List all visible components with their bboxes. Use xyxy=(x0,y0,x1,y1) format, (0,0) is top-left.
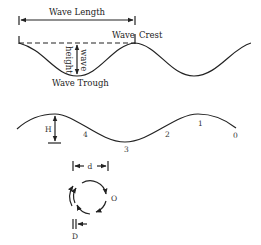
height-label: H xyxy=(45,125,52,134)
diameter-label: d xyxy=(88,162,93,171)
drift-dimension: D xyxy=(72,219,87,241)
point-3: 3 xyxy=(124,145,129,154)
orbital-circle: O xyxy=(70,181,117,214)
wave-crest-label-crest: Crest xyxy=(139,30,163,40)
wave-diagram: Wave Length height wave Wave Crest Wave … xyxy=(0,0,261,245)
wave-height-label-height: height xyxy=(64,46,74,74)
wave-height-label-wave: wave xyxy=(79,49,89,71)
wave-length-dimension: Wave Length xyxy=(19,7,135,25)
point-1: 1 xyxy=(198,119,203,128)
diameter-dimension: d xyxy=(73,161,108,171)
drift-label: D xyxy=(72,232,78,241)
orbit-label: O xyxy=(111,194,117,203)
point-0: 0 xyxy=(233,131,238,140)
point-4: 4 xyxy=(83,130,88,139)
point-2: 2 xyxy=(165,130,170,139)
wave-trough-label: Wave Trough xyxy=(52,78,109,88)
top-wave-curve xyxy=(19,34,251,76)
height-dimension: H xyxy=(45,116,61,143)
wave-length-label: Wave Length xyxy=(49,7,106,17)
wave-crest-label-wave: Wave xyxy=(112,30,135,40)
wave-height-dimension: height wave xyxy=(64,45,89,74)
